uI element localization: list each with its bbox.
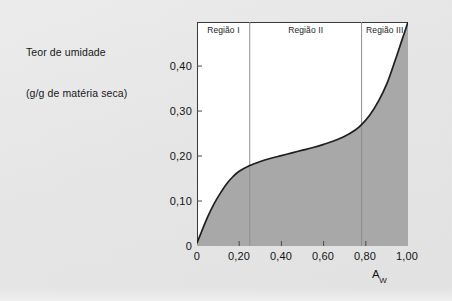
x-tick-label-100: 1,00 [389,250,425,262]
x-tick-label-000: 0 [187,250,207,262]
x-tick-label-060: 0,60 [305,250,341,262]
x-tick-label-020: 0,20 [221,250,257,262]
x-tick-label-080: 0,80 [347,250,383,262]
x-axis-tick-label-group: 0 0,20 0,40 0,60 0,80 1,00 [0,0,452,301]
figure-page: Teor de umidade (g/g de matéria seca) 0,… [0,0,452,301]
x-axis-title: AW [372,268,387,283]
x-tick-label-040: 0,40 [263,250,299,262]
x-axis-title-subscript: W [379,276,387,285]
